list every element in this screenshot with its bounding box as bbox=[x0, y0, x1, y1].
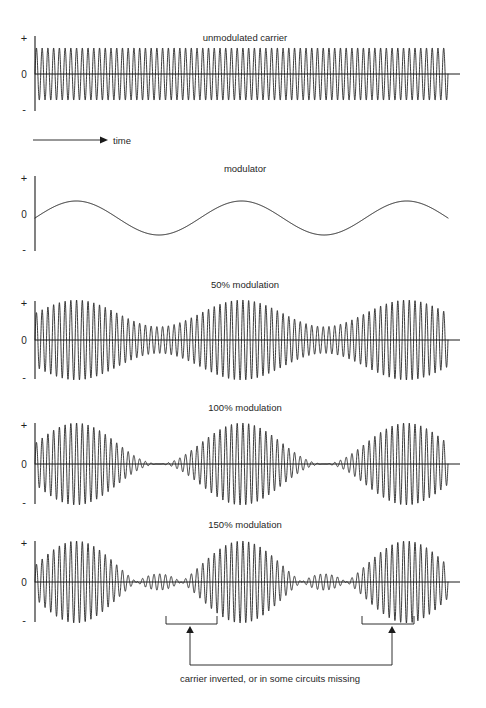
axis-plus-label: + bbox=[21, 297, 27, 309]
panel-title-unmodulated-carrier: unmodulated carrier bbox=[203, 32, 288, 43]
axis-minus-label: - bbox=[22, 496, 26, 508]
axis-zero-label: 0 bbox=[21, 459, 27, 470]
panel-title-modulator: modulator bbox=[224, 163, 266, 174]
axis-minus-label: - bbox=[22, 614, 26, 626]
axis-plus-label: + bbox=[21, 172, 27, 184]
axis-zero-label: 0 bbox=[21, 577, 27, 588]
axis-minus-label: - bbox=[22, 103, 26, 115]
panel-title-mod-100: 100% modulation bbox=[208, 402, 281, 413]
axis-zero-label: 0 bbox=[21, 69, 27, 80]
annotation-caption: carrier inverted, or in some circuits mi… bbox=[180, 673, 360, 684]
axis-zero-label: 0 bbox=[21, 209, 27, 220]
panel-title-mod-50: 50% modulation bbox=[211, 279, 279, 290]
axis-plus-label: + bbox=[21, 32, 27, 44]
axis-minus-label: - bbox=[22, 243, 26, 255]
axis-minus-label: - bbox=[22, 371, 26, 383]
axis-plus-label: + bbox=[21, 419, 27, 431]
axis-plus-label: + bbox=[21, 537, 27, 549]
panel-title-mod-150: 150% modulation bbox=[208, 519, 281, 530]
time-axis-label: time bbox=[113, 135, 131, 146]
axis-zero-label: 0 bbox=[21, 335, 27, 346]
am-modulation-figure: unmodulated carrier + 0 - time modulator… bbox=[0, 0, 486, 708]
